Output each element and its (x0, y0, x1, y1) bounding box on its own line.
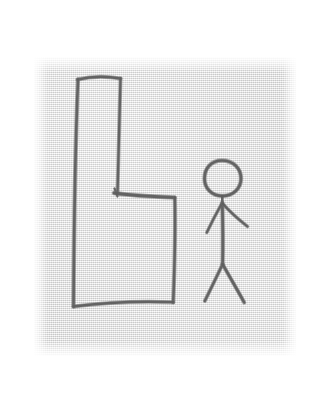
paper-sheet (34, 57, 296, 356)
scan-canvas: A rough pencil drawing on gray textured … (0, 0, 320, 403)
paper-edge-feather (34, 57, 296, 356)
image-alt-text: A rough pencil drawing on gray textured … (0, 0, 1, 1)
